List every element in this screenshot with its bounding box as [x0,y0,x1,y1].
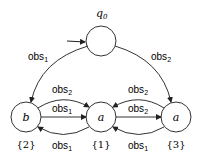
edge-label-b-a1-top: obs2 [52,84,72,96]
state-b-label: b [22,111,29,124]
state-a3-set: {3} [166,139,185,150]
edge-label-q0-a3: obs2 [151,51,171,63]
state-q0 [86,26,116,56]
edge-label-a1-a3-straight: obs2 [128,103,148,115]
edge-a3-a1-bottom [113,127,164,135]
edge-a1-b-bottom [38,127,89,135]
state-a1-set: {1} [91,139,110,150]
edge-label-a3-a1-bottom: obs1 [128,140,148,152]
state-a3-label: a [173,111,180,124]
edge-label-b-a1-straight: obs1 [52,103,72,115]
state-b-set: {2} [16,139,35,150]
edge-label-a1-b-bottom: obs1 [52,140,72,152]
state-diagram: q0 b a a {2} {1} {3} obs1 obs2 obs2 obs1… [0,0,204,161]
state-a1-label: a [98,111,105,124]
edge-label-q0-b: obs1 [28,51,48,63]
initial-arrow [67,41,85,42]
edge-label-a3-a1-top: obs2 [128,84,148,96]
state-q0-label: q0 [96,7,108,21]
